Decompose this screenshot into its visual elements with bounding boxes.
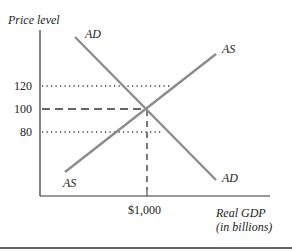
x-axis-sublabel: (in billions)	[216, 220, 272, 234]
ad-label-bottom: AD	[221, 171, 238, 185]
y-tick-label-120: 120	[14, 79, 32, 93]
y-tick-label-100: 100	[14, 102, 32, 116]
as-curve	[65, 54, 216, 172]
ad-label-top: AD	[84, 27, 101, 41]
y-tick-label-80: 80	[20, 125, 32, 139]
as-label-top: AS	[221, 42, 235, 56]
chart-canvas: Price level 120 100 80 $1,000 Real GDP (…	[0, 0, 292, 251]
as-label-bottom: AS	[62, 176, 76, 190]
x-tick-label-1000: $1,000	[128, 203, 161, 217]
y-axis-label: Price level	[7, 13, 60, 27]
x-axis-label: Real GDP	[215, 206, 266, 220]
